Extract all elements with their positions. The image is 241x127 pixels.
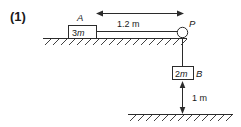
label-point-b: B <box>196 68 203 79</box>
dimension-vertical-label: 1 m <box>192 93 207 103</box>
dim-arrow-right-icon <box>177 11 184 17</box>
pulley-circle-icon <box>177 27 187 37</box>
dim-arrow-down-icon <box>180 107 186 114</box>
ground-top <box>43 39 187 46</box>
dimension-horizontal <box>96 11 184 17</box>
dim-arrow-left-icon <box>96 11 103 17</box>
ground-top-hatching <box>45 39 187 45</box>
figure-index-label: (1) <box>10 9 26 24</box>
dimension-horizontal-label: 1.2 m <box>117 19 140 29</box>
dimension-vertical <box>180 81 186 114</box>
ground-bottom-hatching <box>130 115 232 121</box>
diagram-canvas: (1) A P B 3m 2m 1.2 m 1 m <box>0 0 241 127</box>
label-point-a: A <box>76 12 83 23</box>
block-b-mass-label: 2m <box>175 69 188 79</box>
physics-pulley-diagram: (1) A P B 3m 2m 1.2 m 1 m <box>0 0 241 127</box>
block-a-mass-label: 3m <box>72 28 85 38</box>
dim-arrow-up-icon <box>180 81 186 88</box>
label-point-p: P <box>189 18 196 29</box>
ground-bottom <box>128 115 233 122</box>
